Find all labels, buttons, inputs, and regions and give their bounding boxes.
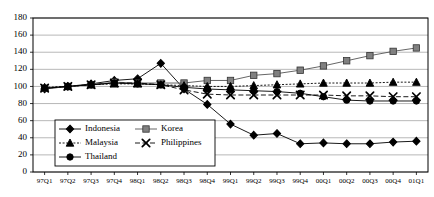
legend: IndonesiaKoreaMalaysiaPhilippinesThailan… xyxy=(55,120,215,166)
x-tick-label: 98Q2 xyxy=(153,177,169,185)
x-tick-label: 00Q2 xyxy=(339,177,355,185)
y-tick-label: 180 xyxy=(14,12,28,22)
x-tick-label: 97Q2 xyxy=(60,177,76,185)
x-tick-label: 97Q3 xyxy=(83,177,99,185)
data-point xyxy=(413,45,419,51)
data-point xyxy=(343,58,349,64)
x-tick-label: 99Q4 xyxy=(292,177,308,185)
x-tick-label: 99Q3 xyxy=(269,177,285,185)
x-tick-label: 97Q1 xyxy=(37,177,53,185)
data-point xyxy=(413,98,419,104)
data-point xyxy=(367,98,373,104)
data-point xyxy=(320,63,326,69)
data-point xyxy=(181,84,187,90)
data-point xyxy=(251,88,257,94)
x-tick-label: 01Q1 xyxy=(409,177,425,185)
data-point xyxy=(204,86,210,92)
x-tick-label: 00Q4 xyxy=(385,177,401,185)
data-point xyxy=(320,94,326,100)
x-tick-label: 98Q3 xyxy=(176,177,192,185)
data-point xyxy=(390,48,396,54)
data-point xyxy=(390,98,396,104)
y-tick-label: 100 xyxy=(14,81,28,91)
data-point xyxy=(158,82,164,88)
data-point xyxy=(274,88,280,94)
x-tick-label: 98Q1 xyxy=(130,177,146,185)
x-tick-label: 97Q4 xyxy=(107,177,123,185)
data-point xyxy=(297,67,303,73)
data-point xyxy=(88,82,94,88)
data-point xyxy=(134,81,140,87)
y-tick-label: 160 xyxy=(14,29,28,39)
y-tick-label: 20 xyxy=(18,149,28,159)
data-point xyxy=(41,85,47,91)
x-tick-label: 00Q1 xyxy=(316,177,332,185)
legend-label: Malaysia xyxy=(85,137,118,147)
x-axis-tick-labels: 97Q197Q297Q397Q498Q198Q298Q398Q499Q199Q2… xyxy=(37,172,425,185)
y-tick-label: 140 xyxy=(14,46,28,56)
data-point xyxy=(251,72,257,78)
y-tick-label: 80 xyxy=(18,98,28,108)
data-point xyxy=(274,70,280,76)
x-tick-label: 98Q4 xyxy=(199,177,215,185)
legend-label: Thailand xyxy=(85,151,117,161)
data-point xyxy=(343,97,349,103)
line-chart: 02040608010012014016018097Q197Q297Q397Q4… xyxy=(0,0,434,197)
legend-label: Korea xyxy=(161,123,183,133)
y-tick-label: 40 xyxy=(18,132,28,142)
chart-container: 02040608010012014016018097Q197Q297Q397Q4… xyxy=(0,0,434,197)
data-point xyxy=(297,90,303,96)
x-tick-label: 00Q3 xyxy=(362,177,378,185)
data-point xyxy=(111,80,117,86)
data-point xyxy=(367,52,373,58)
y-tick-label: 120 xyxy=(14,63,28,73)
y-axis-tick-labels: 020406080100120140160180 xyxy=(14,12,28,176)
legend-label: Indonesia xyxy=(85,123,120,133)
legend-marker xyxy=(67,154,73,160)
x-tick-label: 99Q2 xyxy=(246,177,262,185)
y-tick-label: 60 xyxy=(18,115,28,125)
legend-label: Philippines xyxy=(161,137,202,147)
y-tick-label: 0 xyxy=(23,166,28,176)
data-point xyxy=(65,83,71,89)
x-tick-label: 99Q1 xyxy=(223,177,239,185)
data-point xyxy=(227,87,233,93)
legend-marker xyxy=(143,126,149,132)
